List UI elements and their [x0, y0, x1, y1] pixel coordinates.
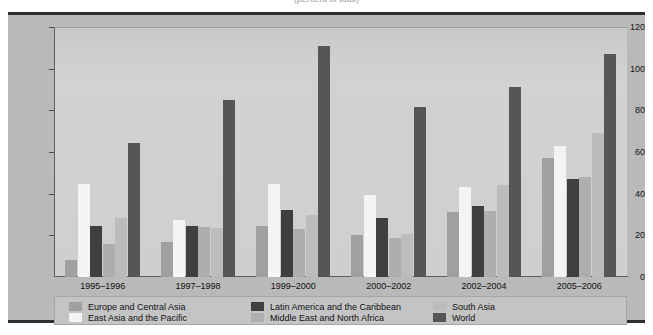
- bar: [579, 177, 591, 277]
- legend-swatch-icon: [251, 302, 264, 311]
- bars-layer: [55, 27, 627, 277]
- bar: [211, 228, 223, 277]
- bar: [281, 210, 293, 277]
- bar: [65, 260, 77, 277]
- legend-item[interactable]: World: [433, 312, 475, 323]
- bar: [161, 242, 173, 277]
- bar: [401, 234, 413, 277]
- bar: [414, 107, 426, 277]
- bar: [376, 218, 388, 277]
- bar: [90, 226, 102, 277]
- x-axis-tick-label: 1999–2000: [271, 281, 316, 291]
- legend-label: Middle East and North Africa: [270, 313, 384, 323]
- chart-title-sliver: (percent of total): [0, 0, 653, 11]
- bar: [103, 244, 115, 277]
- legend-item[interactable]: East Asia and the Pacific: [69, 312, 187, 323]
- bar: [567, 179, 579, 277]
- legend-label: World: [452, 313, 475, 323]
- bar: [293, 229, 305, 277]
- bar: [223, 100, 235, 277]
- chart-title-text: (percent of total): [294, 0, 360, 4]
- legend-swatch-icon: [433, 302, 446, 311]
- bar: [364, 195, 376, 277]
- bar: [351, 235, 363, 277]
- x-axis-tick-label: 2000–2002: [366, 281, 411, 291]
- bar: [128, 143, 140, 277]
- legend-item[interactable]: Latin America and the Caribbean: [251, 301, 401, 312]
- bar: [592, 133, 604, 277]
- y-axis-tick-mark: [49, 152, 54, 153]
- x-axis-tick-label: 1997–1998: [175, 281, 220, 291]
- bar: [459, 187, 471, 277]
- legend-swatch-icon: [251, 313, 264, 322]
- bar: [268, 184, 280, 277]
- chart-figure: (percent of total) 020406080100120 1995–…: [0, 0, 653, 335]
- bar: [173, 220, 185, 277]
- legend-item[interactable]: Middle East and North Africa: [251, 312, 384, 323]
- bar: [256, 226, 268, 277]
- y-axis-tick-mark: [49, 27, 54, 28]
- chart-legend: Europe and Central AsiaEast Asia and the…: [54, 296, 627, 325]
- bar: [604, 54, 616, 277]
- bar: [509, 87, 521, 277]
- bar: [186, 226, 198, 277]
- y-axis-tick-mark: [49, 110, 54, 111]
- legend-label: East Asia and the Pacific: [88, 313, 187, 323]
- bar: [115, 218, 127, 277]
- legend-swatch-icon: [69, 313, 82, 322]
- bar: [542, 158, 554, 277]
- legend-swatch-icon: [69, 302, 82, 311]
- bar: [306, 215, 318, 278]
- y-axis-tick-mark: [49, 235, 54, 236]
- bar: [497, 185, 509, 277]
- chart-panel: 020406080100120 1995–19961997–19981999–2…: [8, 15, 645, 320]
- bar: [484, 211, 496, 277]
- bar: [447, 212, 459, 277]
- legend-swatch-icon: [433, 313, 446, 322]
- bar: [389, 238, 401, 277]
- y-axis-tick-mark: [49, 69, 54, 70]
- legend-item[interactable]: South Asia: [433, 301, 495, 312]
- bar: [198, 227, 210, 277]
- x-axis-tick-label: 1995–1996: [80, 281, 125, 291]
- bar: [318, 46, 330, 277]
- legend-label: Latin America and the Caribbean: [270, 302, 401, 312]
- legend-item[interactable]: Europe and Central Asia: [69, 301, 186, 312]
- bar: [78, 184, 90, 277]
- legend-label: Europe and Central Asia: [88, 302, 186, 312]
- legend-label: South Asia: [452, 302, 495, 312]
- bar: [472, 206, 484, 277]
- x-axis-tick-label: 2002–2004: [461, 281, 506, 291]
- x-axis-tick-label: 2005–2006: [557, 281, 602, 291]
- bar: [554, 146, 566, 277]
- y-axis-tick-mark: [49, 194, 54, 195]
